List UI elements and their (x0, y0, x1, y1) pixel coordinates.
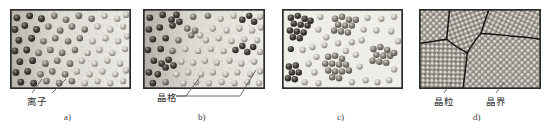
label-grain: 晶粒 (434, 94, 454, 108)
caption-d: d) (473, 112, 481, 122)
panel-a (10, 9, 131, 89)
panel-d (419, 9, 541, 89)
caption-b: b) (198, 112, 206, 122)
label-ion: 离子 (27, 94, 47, 108)
caption-c: c) (337, 112, 344, 122)
panel-a-texture (11, 10, 130, 88)
figure-crystallization-stages: 离子 晶格 晶粒 晶界 a) b) c) d) (0, 0, 548, 133)
panel-b-texture (144, 10, 264, 88)
panel-b (143, 9, 265, 89)
panel-c-graphic (283, 10, 402, 88)
panel-d-graphic (420, 10, 540, 88)
caption-a: a) (64, 112, 71, 122)
panel-c (282, 9, 403, 89)
label-lattice: 晶格 (157, 90, 177, 104)
label-grain-boundary: 晶界 (486, 94, 506, 108)
